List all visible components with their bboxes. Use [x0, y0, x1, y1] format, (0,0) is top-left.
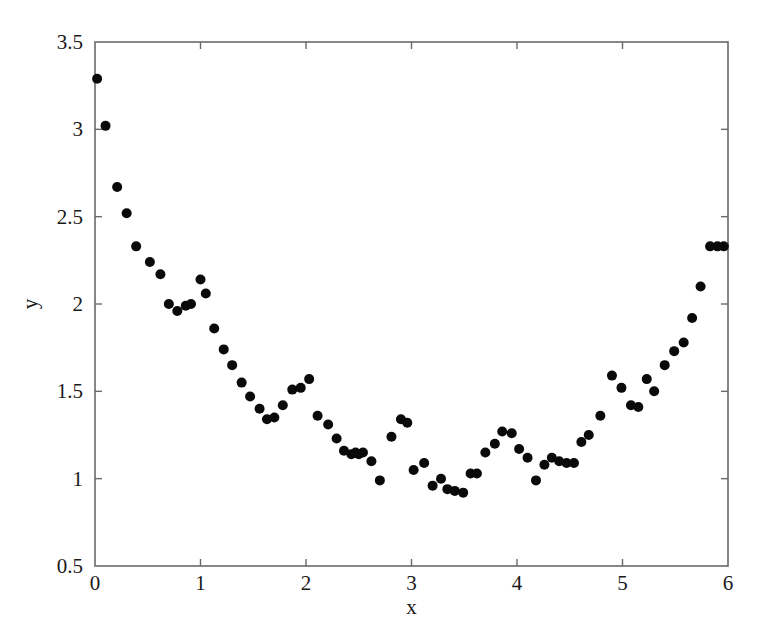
- data-point: [696, 282, 706, 292]
- data-point: [539, 460, 549, 470]
- y-tick-label: 3.5: [57, 30, 83, 54]
- x-tick-label: 3: [406, 571, 417, 595]
- data-point: [164, 299, 174, 309]
- data-point: [679, 337, 689, 347]
- plot-canvas: 0123456 0.511.522.533.5 x y: [0, 0, 771, 625]
- x-tick-label: 6: [723, 571, 734, 595]
- data-point: [227, 360, 237, 370]
- data-point: [386, 432, 396, 442]
- y-tick-label: 2: [73, 292, 84, 316]
- data-point: [642, 374, 652, 384]
- data-point: [569, 458, 579, 468]
- data-point: [616, 383, 626, 393]
- data-point: [719, 241, 729, 251]
- data-point: [269, 413, 279, 423]
- data-point: [255, 404, 265, 414]
- data-point: [490, 439, 500, 449]
- data-point: [458, 488, 468, 498]
- data-point: [531, 475, 541, 485]
- data-point: [669, 346, 679, 356]
- data-point: [428, 481, 438, 491]
- data-point: [402, 418, 412, 428]
- x-axis-label: x: [406, 595, 417, 619]
- data-point: [112, 182, 122, 192]
- data-point: [287, 385, 297, 395]
- data-point: [332, 433, 342, 443]
- data-point: [436, 474, 446, 484]
- data-point: [145, 257, 155, 267]
- data-point: [497, 427, 507, 437]
- y-tick-label: 1.5: [57, 379, 83, 403]
- data-point: [209, 323, 219, 333]
- y-tick-label: 0.5: [57, 554, 83, 578]
- x-tick-label: 1: [195, 571, 206, 595]
- data-point: [313, 411, 323, 421]
- scatter-plot-figure: 0123456 0.511.522.533.5 x y: [0, 0, 771, 625]
- y-tick-label: 1: [73, 467, 84, 491]
- data-point: [366, 456, 376, 466]
- x-tick-label: 2: [301, 571, 312, 595]
- data-point: [196, 275, 206, 285]
- data-point: [304, 374, 314, 384]
- data-point: [245, 392, 255, 402]
- data-point: [507, 428, 517, 438]
- data-point: [358, 447, 368, 457]
- data-point: [155, 269, 165, 279]
- data-point: [101, 121, 111, 131]
- data-point: [584, 430, 594, 440]
- data-point: [649, 386, 659, 396]
- data-point: [480, 447, 490, 457]
- data-point: [278, 400, 288, 410]
- data-point: [219, 344, 229, 354]
- data-point: [375, 475, 385, 485]
- data-point: [472, 468, 482, 478]
- data-point: [323, 420, 333, 430]
- data-point: [409, 465, 419, 475]
- data-point: [92, 74, 102, 84]
- data-point: [633, 402, 643, 412]
- data-point: [523, 453, 533, 463]
- data-point: [172, 306, 182, 316]
- data-point: [576, 437, 586, 447]
- data-point: [607, 371, 617, 381]
- x-tick-label: 4: [512, 571, 523, 595]
- data-point: [201, 289, 211, 299]
- data-point: [687, 313, 697, 323]
- y-tick-label: 3: [73, 117, 84, 141]
- x-tick-label: 0: [90, 571, 101, 595]
- figure-background: [0, 0, 771, 625]
- data-point: [595, 411, 605, 421]
- y-tick-label: 2.5: [57, 205, 83, 229]
- data-point: [186, 299, 196, 309]
- data-point: [419, 458, 429, 468]
- data-point: [237, 378, 247, 388]
- data-point: [122, 208, 132, 218]
- y-axis-label: y: [18, 298, 42, 309]
- x-tick-label: 5: [617, 571, 628, 595]
- data-point: [296, 383, 306, 393]
- data-point: [131, 241, 141, 251]
- data-point: [514, 444, 524, 454]
- data-point: [660, 360, 670, 370]
- data-point: [450, 486, 460, 496]
